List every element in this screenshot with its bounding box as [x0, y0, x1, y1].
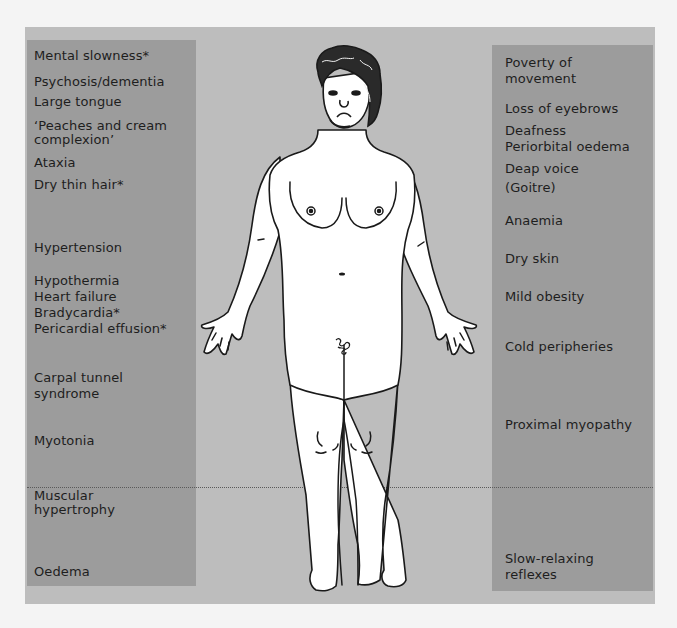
- navel: [339, 273, 345, 276]
- left-leg: [290, 380, 344, 591]
- torso: [269, 130, 414, 400]
- left-arm: [202, 157, 280, 354]
- body-figure-illustration: [0, 0, 677, 628]
- head: [317, 46, 381, 128]
